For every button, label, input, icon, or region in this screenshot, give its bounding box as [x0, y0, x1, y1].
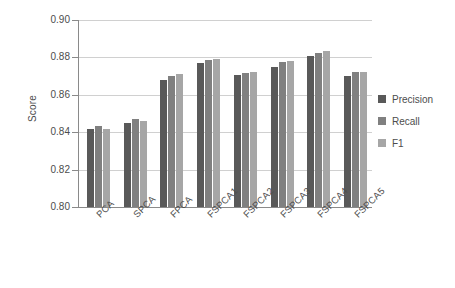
bar-precision-fspca1 — [197, 63, 204, 207]
bar-chart: Score 0.900.880.860.840.820.80 PCASPCAFP… — [0, 0, 455, 288]
bar-precision-pca — [87, 129, 94, 207]
bar-group — [344, 20, 367, 207]
y-axis-tick-label: 0.86 — [30, 90, 70, 100]
bar-f1-pca — [103, 129, 110, 207]
y-axis-tick-label: 0.90 — [30, 15, 70, 25]
bar-recall-fspca1 — [205, 60, 212, 207]
bar-f1-spca — [140, 121, 147, 207]
legend: PrecisionRecallF1 — [378, 88, 433, 154]
bar-recall-pca — [95, 126, 102, 207]
bar-group — [87, 20, 110, 207]
bar-group — [271, 20, 294, 207]
legend-item[interactable]: Recall — [378, 110, 433, 132]
bar-recall-fspca2 — [242, 73, 249, 207]
bar-precision-fpca — [160, 80, 167, 207]
bar-recall-fspca4 — [315, 53, 322, 207]
bar-group — [197, 20, 220, 207]
legend-item[interactable]: Precision — [378, 88, 433, 110]
bar-precision-fspca4 — [307, 56, 314, 207]
bar-group — [160, 20, 183, 207]
bar-f1-fspca2 — [250, 72, 257, 207]
bar-group — [124, 20, 147, 207]
bar-f1-fspca4 — [323, 51, 330, 207]
bars-layer — [78, 20, 372, 207]
y-axis-tick-label: 0.82 — [30, 165, 70, 175]
bar-f1-fpca — [176, 74, 183, 207]
bar-recall-fspca5 — [352, 72, 359, 207]
legend-swatch-icon — [378, 117, 386, 125]
legend-swatch-icon — [378, 95, 386, 103]
bar-f1-fspca1 — [213, 59, 220, 207]
bar-recall-fspca3 — [279, 62, 286, 207]
bar-recall-fpca — [168, 76, 175, 207]
legend-label: Precision — [392, 94, 433, 105]
y-axis-tick-label: 0.80 — [30, 202, 70, 212]
y-axis-tick — [72, 207, 79, 208]
bar-precision-fspca3 — [271, 67, 278, 207]
bar-f1-fspca3 — [287, 61, 294, 207]
legend-item[interactable]: F1 — [378, 132, 433, 154]
bar-f1-fspca5 — [360, 72, 367, 207]
bar-precision-spca — [124, 123, 131, 207]
legend-swatch-icon — [378, 139, 386, 147]
bar-recall-spca — [132, 119, 139, 207]
legend-label: F1 — [392, 138, 404, 149]
y-axis-tick-label: 0.88 — [30, 52, 70, 62]
y-axis-tick-label: 0.84 — [30, 127, 70, 137]
legend-label: Recall — [392, 116, 420, 127]
bar-group — [307, 20, 330, 207]
bar-group — [234, 20, 257, 207]
